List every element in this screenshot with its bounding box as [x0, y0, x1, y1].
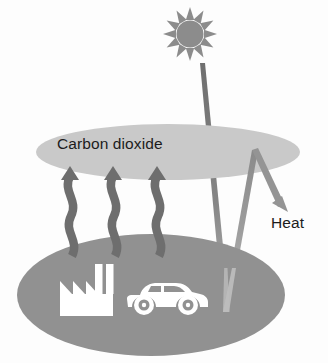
sun-icon — [163, 7, 217, 61]
emission-arrow-1 — [61, 166, 79, 256]
diagram-canvas — [0, 0, 328, 363]
sun-disc-icon — [177, 21, 204, 48]
car-wheel-front-cap — [142, 303, 146, 307]
heat-label: Heat — [271, 214, 304, 232]
carbon-dioxide-label: Carbon dioxide — [57, 135, 163, 153]
car-wheel-rear-cap — [186, 303, 190, 307]
greenhouse-effect-diagram: Carbon dioxide Heat — [0, 0, 328, 363]
